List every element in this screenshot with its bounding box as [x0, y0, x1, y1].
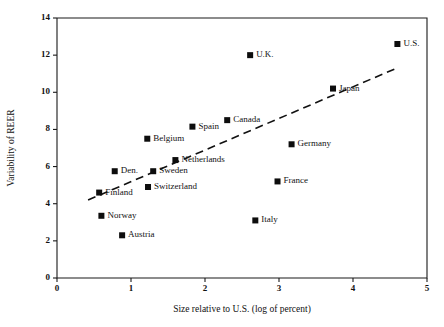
data-point-marker — [172, 157, 178, 163]
data-point: Spain — [189, 121, 219, 131]
data-point-marker — [119, 232, 125, 238]
data-point: Finland — [96, 187, 133, 197]
data-point-label: U.S. — [403, 38, 419, 48]
data-point-marker — [394, 41, 400, 47]
data-point-marker — [275, 178, 281, 184]
y-tick-label: 12 — [41, 49, 51, 59]
x-tick-label: 5 — [425, 283, 430, 293]
data-point: U.S. — [394, 38, 419, 48]
data-point-marker — [96, 190, 102, 196]
data-point-label: Belgium — [153, 133, 184, 143]
data-point: Germany — [289, 138, 332, 148]
data-point-marker — [289, 141, 295, 147]
data-point: Den. — [112, 165, 138, 175]
data-point: Norway — [98, 210, 136, 220]
data-point-label: Austria — [128, 229, 155, 239]
data-point: France — [275, 175, 309, 185]
x-tick-label: 4 — [351, 283, 356, 293]
data-point-label: Italy — [261, 214, 278, 224]
data-point: Switzerland — [145, 181, 197, 191]
data-point: Netherlands — [172, 154, 225, 164]
y-tick-label: 2 — [46, 235, 51, 245]
data-point: Austria — [119, 229, 154, 239]
data-point-label: Japan — [339, 83, 360, 93]
scatter-plot: 02468101214 012345 U.S.U.K.JapanCanadaSp… — [0, 0, 444, 327]
data-point-label: Spain — [198, 121, 219, 131]
y-tick-label: 0 — [46, 272, 51, 282]
plot-frame — [57, 18, 427, 278]
data-point-marker — [112, 168, 118, 174]
x-tick-label: 3 — [277, 283, 282, 293]
data-point-marker — [98, 213, 104, 219]
data-point-label: Germany — [298, 138, 332, 148]
data-point: U.K. — [247, 49, 274, 59]
data-point: Italy — [252, 214, 278, 224]
data-point-marker — [224, 117, 230, 123]
data-point-marker — [189, 124, 195, 130]
data-point-label: Den. — [121, 165, 138, 175]
x-axis-title: Size relative to U.S. (log of percent) — [173, 304, 311, 315]
data-point: Belgium — [144, 133, 184, 143]
x-axis-ticks: 012345 — [55, 278, 430, 293]
y-axis-title: Variability of REER — [6, 109, 16, 187]
data-point-marker — [330, 86, 336, 92]
data-point-marker — [145, 184, 151, 190]
data-point-label: Canada — [233, 114, 260, 124]
data-point: Sweden — [150, 165, 188, 175]
y-tick-label: 14 — [41, 12, 51, 22]
y-tick-label: 4 — [46, 198, 51, 208]
y-tick-label: 6 — [46, 161, 51, 171]
x-tick-label: 0 — [55, 283, 60, 293]
y-tick-label: 10 — [41, 86, 51, 96]
chart-figure: 02468101214 012345 U.S.U.K.JapanCanadaSp… — [0, 0, 444, 327]
data-point-label: Norway — [107, 210, 136, 220]
data-point-label: Switzerland — [154, 181, 197, 191]
data-point-label: U.K. — [256, 49, 274, 59]
data-point-label: France — [284, 175, 309, 185]
x-tick-label: 2 — [203, 283, 208, 293]
data-point-label: Finland — [105, 187, 133, 197]
data-point-marker — [144, 136, 150, 142]
data-point-marker — [150, 168, 156, 174]
y-axis-ticks: 02468101214 — [41, 12, 57, 282]
data-point: Canada — [224, 114, 260, 124]
data-point: Japan — [330, 83, 360, 93]
data-point-label: Netherlands — [181, 154, 225, 164]
data-point-marker — [247, 52, 253, 58]
data-points: U.S.U.K.JapanCanadaSpainBelgiumGermanyNe… — [96, 38, 419, 239]
y-tick-label: 8 — [46, 123, 51, 133]
data-point-marker — [252, 217, 258, 223]
data-point-label: Sweden — [159, 165, 188, 175]
x-tick-label: 1 — [129, 283, 134, 293]
